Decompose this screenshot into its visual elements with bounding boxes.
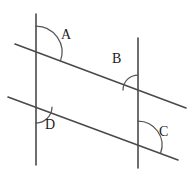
angle-label-b: B [112, 52, 121, 66]
angle-arcs-group [36, 26, 162, 153]
angle-label-c: C [159, 125, 168, 139]
angle-label-a: A [61, 28, 71, 42]
angle-label-d: D [45, 118, 55, 132]
geometry-figure: A B C D [0, 0, 193, 178]
upper-transversal-line [15, 44, 186, 108]
lower-transversal-line [8, 97, 178, 160]
geometry-canvas [0, 0, 193, 178]
angle-a-arc [36, 26, 62, 61]
lines-group [8, 14, 186, 168]
